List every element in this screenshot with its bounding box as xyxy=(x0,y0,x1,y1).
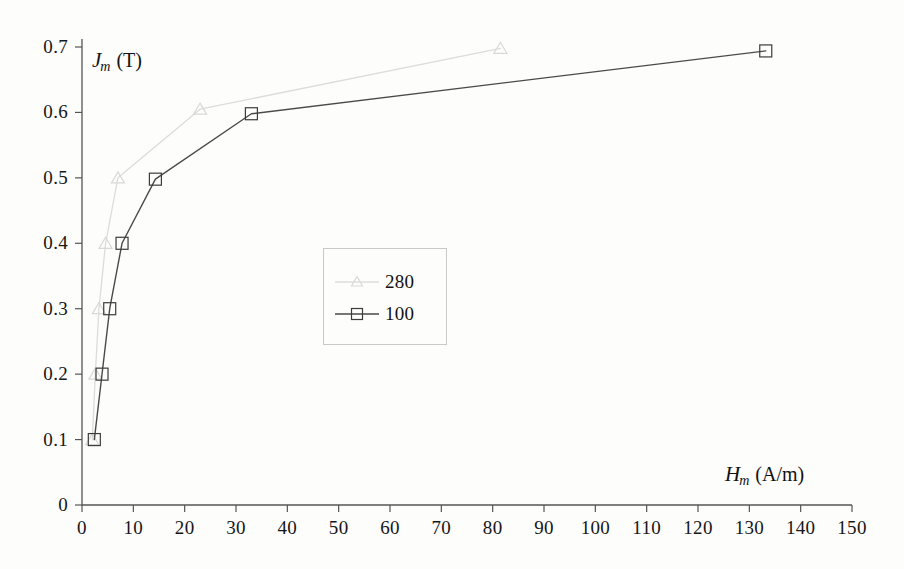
y-axis-title: Jm (T) xyxy=(92,48,142,73)
x-tick-label: 110 xyxy=(632,517,661,539)
legend-label-280: 280 xyxy=(385,271,414,293)
legend-item-100: 100 xyxy=(324,299,446,329)
legend: 280 100 xyxy=(323,248,447,345)
x-tick-label: 20 xyxy=(175,517,195,539)
x-tick-label: 70 xyxy=(432,517,452,539)
x-tick-label: 90 xyxy=(534,517,554,539)
x-tick-label: 100 xyxy=(581,517,610,539)
y-tick-label: 0 xyxy=(10,494,68,516)
y-tick-label: 0.3 xyxy=(10,298,68,320)
x-tick-label: 50 xyxy=(329,517,349,539)
y-tick-label: 0.6 xyxy=(10,101,68,123)
legend-marker-square-icon xyxy=(333,302,381,326)
y-tick-label: 0.5 xyxy=(10,167,68,189)
x-tick-label: 10 xyxy=(124,517,144,539)
legend-label-100: 100 xyxy=(385,303,414,325)
x-tick-label: 0 xyxy=(77,517,87,539)
x-tick-label: 40 xyxy=(278,517,298,539)
x-tick-label: 130 xyxy=(735,517,764,539)
y-tick-label: 0.2 xyxy=(10,363,68,385)
data-series xyxy=(86,42,772,445)
axes xyxy=(75,39,852,512)
y-tick-label: 0.1 xyxy=(10,429,68,451)
x-tick-label: 60 xyxy=(380,517,400,539)
x-axis-title: Hm (A/m) xyxy=(725,462,804,487)
x-tick-label: 80 xyxy=(483,517,503,539)
legend-marker-triangle-icon xyxy=(333,270,381,294)
x-tick-label: 120 xyxy=(683,517,712,539)
x-tick-label: 150 xyxy=(837,517,866,539)
y-tick-label: 0.7 xyxy=(10,36,68,58)
y-tick-label: 0.4 xyxy=(10,232,68,254)
x-tick-label: 140 xyxy=(786,517,815,539)
legend-item-280: 280 xyxy=(324,267,446,297)
chart-figure: 010203040506070809010011012013014015000.… xyxy=(0,0,904,569)
x-tick-label: 30 xyxy=(226,517,246,539)
